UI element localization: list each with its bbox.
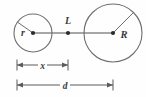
small-radius-label: r [21,27,25,38]
mid-point-label: L [64,15,71,26]
two-circles-diagram: r R L x [0,0,146,97]
mid-point-dot [66,31,70,35]
large-circle-center-dot [111,31,115,35]
small-circle-center-dot [31,31,35,35]
dimension-x-label: x [39,61,45,71]
dimension-d-label: d [63,81,68,91]
large-radius-label: R [119,29,127,40]
diagram-canvas: r R L x [0,0,146,97]
